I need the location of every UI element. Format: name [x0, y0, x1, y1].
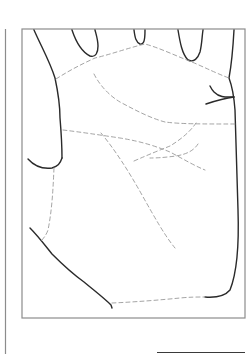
index-finger — [72, 30, 98, 56]
palm-right-edge — [205, 30, 238, 297]
thumb-notch — [28, 158, 62, 168]
hand-outline — [28, 30, 238, 308]
palm-creases — [40, 44, 236, 303]
palm-left-edge — [34, 30, 62, 158]
ring-finger — [178, 30, 203, 61]
fate-line — [101, 133, 175, 248]
figure-frame — [22, 29, 245, 318]
palm-diagram — [0, 0, 252, 354]
heart-line — [94, 74, 236, 124]
life-line — [40, 168, 54, 242]
hypothenar-crease — [206, 97, 234, 104]
wrist-line — [112, 297, 205, 303]
hypothenar-branch — [210, 86, 234, 97]
branch-line-1 — [134, 123, 196, 161]
middle-finger — [134, 30, 145, 44]
